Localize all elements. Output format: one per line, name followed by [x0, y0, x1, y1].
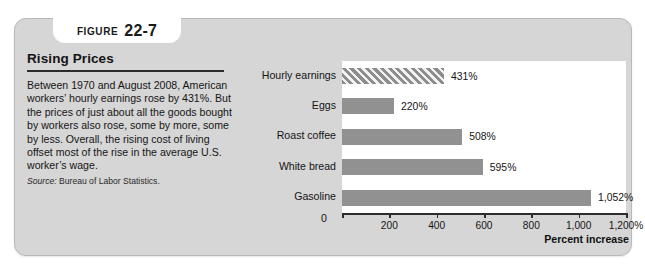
bar-value-label: 431%	[451, 69, 478, 84]
tick-label: 1,200%	[609, 220, 644, 231]
tick-label: 1,000	[566, 220, 592, 231]
figure-tab-word: FIGURE	[77, 26, 118, 37]
tick-mark	[437, 213, 439, 218]
tick-mark	[579, 213, 581, 218]
category-label-white-bread: White bread	[247, 160, 336, 172]
figure-title: Rising Prices	[27, 51, 241, 66]
title-divider	[27, 70, 224, 72]
figure-panel: FIGURE 22-7 Rising Prices Between 1970 a…	[14, 18, 632, 256]
figure-source: Source: Bureau of Labor Statistics.	[27, 176, 241, 187]
category-label-hourly-earnings: Hourly earnings	[247, 69, 336, 81]
tick-mark	[342, 213, 344, 218]
bar-value-label: 220%	[401, 99, 428, 114]
category-label-roast-coffee: Roast coffee	[247, 129, 336, 141]
x-axis-zero-label: 0	[321, 212, 327, 224]
tick-mark	[389, 213, 391, 218]
source-text: Bureau of Labor Statistics.	[59, 176, 160, 186]
tick-mark	[626, 213, 628, 218]
tick-mark	[531, 213, 533, 218]
category-label-eggs: Eggs	[247, 99, 336, 111]
source-label: Source:	[27, 176, 57, 186]
figure-tab-number: 22-7	[124, 22, 157, 40]
figure-number-tab: FIGURE 22-7	[53, 18, 181, 43]
category-label-gasoline: Gasoline	[247, 190, 336, 202]
bar-roast-coffee	[342, 129, 462, 145]
bar-white-bread	[342, 159, 483, 175]
tick-mark	[484, 213, 486, 218]
bar-eggs	[342, 98, 394, 114]
tick-label: 600	[476, 220, 493, 231]
tick-label: 400	[428, 220, 445, 231]
tick-label: 800	[523, 220, 540, 231]
x-axis-title: Percent increase	[544, 233, 629, 245]
bar-chart: 431%220%508%595%1,052% Hourly earningsEg…	[247, 41, 629, 247]
figure-description: Between 1970 and August 2008, American w…	[27, 79, 232, 173]
caption-column: Rising Prices Between 1970 and August 20…	[27, 51, 241, 187]
bar-value-label: 595%	[490, 160, 517, 175]
bar-value-label: 508%	[469, 129, 496, 144]
bar-value-label: 1,052%	[598, 190, 633, 205]
bar-hourly-earnings	[342, 68, 444, 84]
bar-gasoline	[342, 190, 591, 206]
tick-label: 200	[381, 220, 398, 231]
